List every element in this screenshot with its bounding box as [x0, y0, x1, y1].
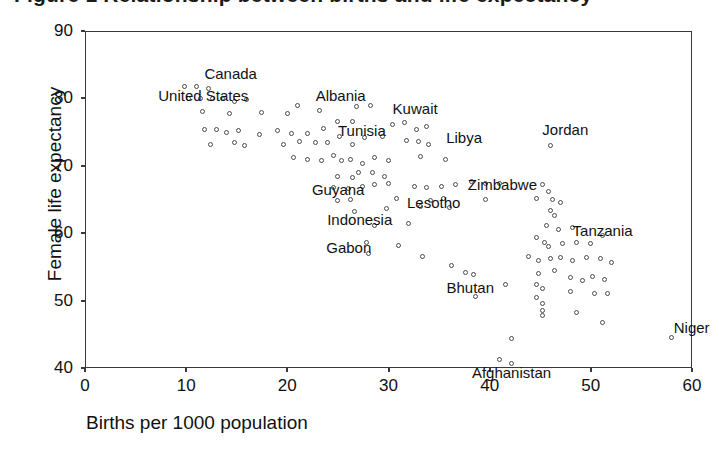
x-tick-label: 30	[372, 377, 406, 394]
x-tick-mark	[388, 368, 390, 372]
x-tick-label: 60	[675, 377, 709, 394]
x-tick-mark	[590, 368, 592, 372]
y-tick-label: 40	[43, 359, 73, 376]
x-tick-mark	[286, 368, 288, 372]
x-axis-label: Births per 1000 population	[86, 412, 308, 434]
x-tick-mark	[185, 368, 187, 372]
x-tick-label: 10	[169, 377, 203, 394]
figure-title-strip: Figure 1 Relationship between births and…	[0, 0, 719, 12]
x-tick-mark	[691, 368, 693, 372]
plot-frame	[85, 31, 692, 368]
scatter-plot-figure: Figure 1 Relationship between births and…	[0, 0, 719, 456]
y-axis-label: Female life expectancy	[44, 54, 66, 314]
x-tick-mark	[84, 368, 86, 372]
x-tick-mark	[489, 368, 491, 372]
x-tick-label: 20	[270, 377, 304, 394]
x-tick-label: 0	[68, 377, 102, 394]
figure-title: Figure 1 Relationship between births and…	[14, 0, 592, 7]
x-tick-label: 50	[574, 377, 608, 394]
x-tick-label: 40	[473, 377, 507, 394]
y-tick-label: 90	[43, 22, 73, 39]
